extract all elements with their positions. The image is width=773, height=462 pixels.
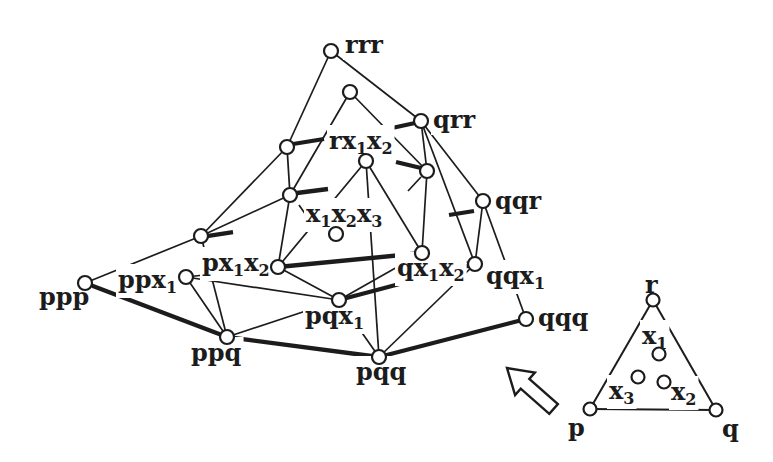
edge-qrr-qqx (421, 121, 475, 264)
vertex-pxx (271, 260, 285, 274)
label-x2: x2 (669, 376, 698, 410)
edge-prr-ppr (201, 147, 287, 236)
vertex-xxx (329, 227, 343, 241)
vertex-rrx (343, 85, 357, 99)
vertex-pqx (332, 293, 346, 307)
edge-qqr-qqx (475, 201, 483, 264)
label-q: q (720, 413, 741, 444)
vertex-qxx (415, 246, 429, 260)
broken-thick-edge-stub (297, 189, 328, 193)
label-text-ppq: ppq (191, 338, 242, 367)
vertex-q (710, 404, 723, 417)
vertex-rxx (359, 154, 373, 168)
vertex-pqq (372, 350, 386, 364)
broken-thick-edge-stub (392, 123, 415, 128)
vertex-rrr (324, 44, 338, 58)
label-qxx: qx1x2 (395, 252, 467, 286)
label-qqq: qqq (536, 302, 591, 333)
label-text-qqq: qqq (538, 303, 589, 332)
label-rxx: rx1x2 (327, 125, 395, 159)
label-ppq: ppq (189, 337, 244, 368)
vertex-qqx (468, 257, 482, 271)
label-text-qqr: qqr (495, 186, 542, 215)
edge-prx-pxx (278, 195, 290, 267)
vertex-x2 (658, 376, 671, 389)
label-text-xxx: x1x2x3 (306, 199, 382, 231)
figure-canvas: rrrqrrrx1x2qqrx1x2x3qx1x2qqx1px1x2ppx1pp… (0, 0, 773, 462)
label-text-qrr: qrr (433, 105, 475, 134)
vertex-qqq (519, 312, 533, 326)
broken-thick-edge-stub (207, 232, 233, 236)
edge-pqq-qqq (379, 319, 526, 357)
label-rrr: rrr (343, 29, 385, 60)
label-qrr: qrr (431, 104, 477, 135)
edge-rrr-prr (287, 51, 331, 147)
labels: rrrqrrrx1x2qqrx1x2x3qx1x2qqx1px1x2ppx1pp… (37, 29, 591, 387)
vertex-prx (283, 188, 297, 202)
vertex-ppx (179, 270, 193, 284)
edge-ppq-pqq (227, 337, 379, 357)
vertex-r (647, 294, 660, 307)
vertex-qrx (420, 164, 434, 178)
vertex-x1 (653, 348, 666, 361)
vertex-ppr (194, 229, 208, 243)
label-ppx: ppx1 (116, 264, 179, 298)
vertex-x3 (632, 371, 645, 384)
substitution-arrow-icon (507, 368, 558, 414)
broken-thin-edge-stub (408, 177, 421, 191)
vertex-prr (280, 140, 294, 154)
label-qqx: qqx1 (484, 260, 547, 294)
label-text-rrr: rrr (345, 30, 383, 59)
vertex-qrr (414, 114, 428, 128)
edge-rrr-qrr (331, 51, 421, 121)
edge-ppr-prx (201, 195, 290, 236)
label-xxx: x1x2x3 (304, 198, 384, 232)
simplex-words-diagram: rrrqrrrx1x2qqrx1x2x3qx1x2qqx1px1x2ppx1pp… (0, 0, 773, 462)
label-text-p: p (568, 413, 585, 442)
label-p: p (566, 412, 587, 443)
broken-thick-edge-stub (396, 162, 421, 168)
broken-thick-edge-stub (449, 211, 474, 215)
vertices (584, 294, 723, 417)
label-qqr: qqr (493, 185, 544, 216)
vertex-ppq (220, 330, 234, 344)
vertex-p (584, 403, 597, 416)
vertex-qqr (476, 194, 490, 208)
label-text-q: q (722, 414, 739, 443)
vertex-ppp (78, 276, 92, 290)
edge-qrx-qxx (422, 171, 427, 253)
label-pxx: px1x2 (200, 247, 272, 281)
